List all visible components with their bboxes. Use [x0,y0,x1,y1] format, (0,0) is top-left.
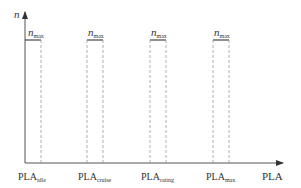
svg-text:nmax: nmax [151,26,167,39]
pulse-max: nmax PLAmax [206,26,235,183]
pla-speed-diagram: n PLA nmax PLAidle nmax PLAcruise nmax P… [0,0,301,188]
svg-text:PLAidle: PLAidle [18,171,46,183]
svg-text:PLAmax: PLAmax [206,171,235,183]
x-axis-label: PLA [262,170,283,182]
pulse-rating: nmax PLArating [141,26,174,183]
pulse-idle: nmax PLAidle [18,26,46,183]
svg-text:PLAcruise: PLAcruise [78,171,112,183]
svg-text:nmax: nmax [28,26,44,39]
svg-text:PLArating: PLArating [141,171,174,183]
svg-text:nmax: nmax [214,26,230,39]
y-axis-label: n [14,8,20,20]
svg-text:nmax: nmax [88,26,104,39]
pulse-cruise: nmax PLAcruise [78,26,112,183]
